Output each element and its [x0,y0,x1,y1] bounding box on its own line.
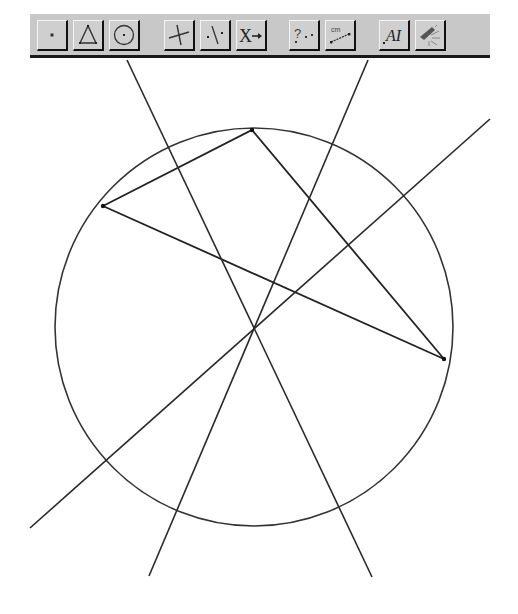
tool-palette: X ? cm AI [30,14,490,58]
polygon-tool-button[interactable] [73,20,104,51]
line-midpoint-icon [203,23,227,47]
circle-icon [112,23,136,47]
measure-cm-icon: cm [327,23,353,47]
check-property-tool-button[interactable]: ? [289,20,320,51]
triangle-icon [76,23,100,47]
perpendicular-lines-icon [167,23,191,47]
brush-light-icon [418,23,442,47]
vertex-point-b[interactable] [250,128,254,132]
circle-tool-button[interactable] [109,20,140,51]
perpendicular-tool-button[interactable] [164,20,195,51]
midpoint-tool-button[interactable] [200,20,231,51]
text-tool-button[interactable]: AI [379,20,410,51]
transform-tool-button[interactable]: X [236,20,267,51]
vertex-point-a[interactable] [101,204,105,208]
point-icon [40,23,64,47]
svg-text:X: X [239,26,252,46]
question-points-icon: ? [292,23,316,47]
text-label-icon: AI [381,23,407,47]
vertex-point-c[interactable] [442,357,446,361]
svg-text:AI: AI [385,27,402,44]
svg-text:cm: cm [331,26,341,33]
svg-text:?: ? [294,26,301,41]
geometry-canvas[interactable] [0,0,518,614]
transform-arrow-icon: X [238,23,264,47]
perpendicular-bisector-line-1[interactable] [30,119,490,528]
point-tool-button[interactable] [37,20,68,51]
triangle-abc[interactable] [103,130,444,359]
measure-tool-button[interactable]: cm [325,20,356,51]
display-tool-button[interactable] [415,20,446,51]
